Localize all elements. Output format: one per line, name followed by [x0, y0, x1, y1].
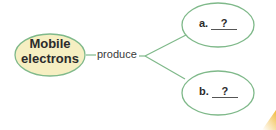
connector-label: produce [97, 48, 137, 60]
answer-a-blank[interactable]: ? [211, 17, 237, 30]
central-node-line2: electrons [15, 51, 85, 66]
central-node-line1: Mobile [15, 36, 85, 51]
answer-a-prefix: a. [199, 17, 208, 29]
branch-line-b [145, 56, 185, 79]
central-node-label: Mobile electrons [15, 36, 85, 66]
branch-line-a [145, 35, 186, 56]
answer-b-blank[interactable]: ? [212, 85, 238, 98]
answer-b-prefix: b. [199, 85, 209, 97]
corner-decoration [262, 110, 276, 130]
answer-a: a.? [199, 17, 237, 30]
answer-b: b.? [199, 85, 238, 98]
